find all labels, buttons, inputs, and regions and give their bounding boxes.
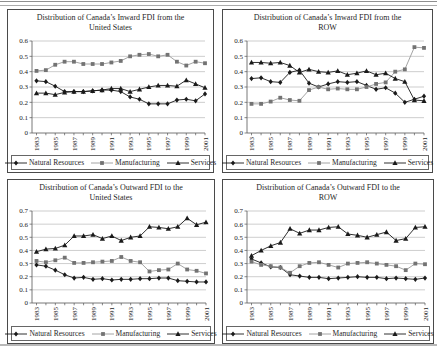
chart-title: Distribution of Canada’s Outward FDI to …: [225, 183, 431, 203]
x-tick-label: 1991: [325, 307, 333, 322]
chart-title-line-2: United States: [10, 193, 212, 203]
marker-square: [128, 54, 132, 58]
diamond-marker-icon: [222, 159, 244, 167]
chart-outward-fdi-row: Distribution of Canada’s Outward FDI to …: [222, 179, 434, 344]
marker-square: [185, 268, 189, 272]
marker-square: [375, 262, 379, 266]
marker-square: [109, 61, 113, 65]
x-tick-label: 1991: [108, 307, 116, 322]
x-tick-label: 1987: [286, 137, 294, 152]
marker-square: [259, 102, 263, 106]
chart-title-line-1: Distribution of Canada’s Outward FDI to …: [225, 183, 431, 193]
y-tick-label: 0.3: [234, 260, 243, 268]
marker-square: [166, 268, 170, 272]
triangle-marker-icon: [384, 159, 406, 167]
marker-diamond: [166, 275, 170, 280]
chart-title-line-2: ROW: [225, 23, 430, 33]
x-tick-label: 2001: [422, 307, 430, 322]
marker-square: [82, 261, 86, 265]
marker-triangle: [184, 77, 189, 82]
marker-diamond: [157, 275, 161, 280]
marker-square: [44, 260, 48, 264]
marker-diamond: [44, 79, 48, 84]
x-tick-label: 1997: [382, 137, 390, 152]
x-tick-label: 1985: [52, 137, 60, 152]
y-tick-label: 0.4: [234, 68, 243, 76]
top-rule-2: [0, 5, 437, 6]
x-tick-label: 1993: [344, 307, 352, 322]
x-tick-label: 1983: [33, 307, 41, 322]
marker-square: [288, 98, 292, 102]
x-tick-label: 1999: [183, 137, 191, 152]
chart-title-line-2: ROW: [225, 193, 431, 203]
series-line-square: [37, 257, 207, 273]
x-tick-label: 1993: [127, 137, 135, 152]
marker-triangle: [203, 219, 208, 224]
x-tick-label: 1983: [248, 307, 256, 322]
x-tick-label: 1995: [145, 137, 153, 152]
x-tick-label: 1989: [306, 137, 314, 152]
y-tick-label: 0.1: [234, 286, 243, 294]
chart-inward-fdi-us: Distribution of Canada’s Inward FDI from…: [7, 9, 214, 173]
marker-diamond: [317, 275, 321, 280]
legend-item-natural-resources: Natural Resources: [222, 329, 301, 338]
square-marker-icon: [309, 330, 331, 338]
marker-square: [317, 161, 321, 165]
marker-square: [63, 60, 67, 64]
marker-diamond: [176, 278, 180, 283]
marker-square: [269, 100, 273, 104]
marker-diamond: [129, 277, 133, 282]
marker-triangle: [185, 216, 190, 221]
legend-item-manufacturing: Manufacturing: [309, 329, 378, 338]
marker-diamond: [110, 277, 114, 282]
x-tick-label: 1989: [90, 307, 98, 322]
marker-diamond: [203, 91, 207, 96]
marker-square: [404, 268, 408, 272]
legend-label: Services: [408, 158, 433, 167]
marker-square: [101, 260, 105, 264]
y-tick-label: 0.5: [19, 53, 28, 61]
plot-area: 00.10.20.30.40.50.60.7198319851987198919…: [8, 206, 214, 332]
marker-square: [355, 87, 359, 91]
legend-label: Manufacturing: [116, 329, 161, 338]
marker-diamond: [44, 264, 48, 269]
y-tick-label: 0: [25, 129, 29, 137]
x-tick-label: 1983: [33, 137, 41, 152]
square-marker-icon: [308, 159, 330, 167]
marker-square: [129, 259, 133, 263]
chart-title: Distribution of Canada’s Inward FDI from…: [10, 13, 211, 33]
marker-triangle: [383, 71, 388, 76]
marker-triangle: [335, 68, 340, 73]
marker-square: [119, 255, 123, 259]
marker-square: [184, 64, 188, 68]
marker-square: [119, 59, 123, 63]
x-tick-label: 1995: [364, 307, 372, 322]
legend-item-manufacturing: Manufacturing: [308, 158, 377, 167]
marker-diamond: [14, 160, 18, 165]
marker-square: [194, 60, 198, 64]
legend-label: Manufacturing: [333, 329, 378, 338]
marker-square: [384, 81, 388, 85]
marker-square: [53, 258, 57, 262]
marker-square: [204, 272, 208, 276]
marker-square: [91, 260, 95, 264]
marker-square: [81, 62, 85, 66]
y-tick-label: 0.1: [19, 286, 28, 294]
marker-square: [307, 261, 311, 265]
y-tick-label: 0.7: [234, 207, 243, 215]
marker-square: [63, 256, 67, 260]
plot-area: 00.10.20.30.40.50.60.7198319851987198919…: [223, 206, 433, 332]
y-tick-label: 0.2: [19, 273, 28, 281]
marker-square: [278, 96, 282, 100]
marker-square: [288, 271, 292, 275]
marker-diamond: [259, 75, 263, 80]
legend-item-natural-resources: Natural Resources: [5, 158, 84, 167]
marker-triangle: [287, 226, 292, 231]
diamond-marker-icon: [5, 159, 27, 167]
marker-square: [203, 61, 207, 65]
marker-diamond: [422, 94, 426, 99]
legend-label: Natural Resources: [246, 329, 301, 338]
marker-square: [250, 260, 254, 264]
marker-diamond: [185, 279, 189, 284]
y-tick-label: 0: [240, 299, 244, 307]
